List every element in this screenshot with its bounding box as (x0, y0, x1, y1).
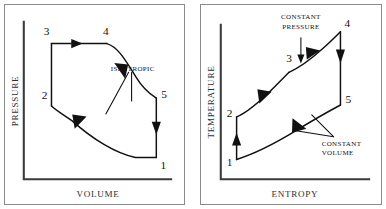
ts-arrow-1-2-icon (232, 133, 241, 146)
ts-point-label-3: 3 (286, 52, 292, 64)
pv-point-label-4: 4 (103, 25, 109, 37)
pressure-volume-panel: 3 4 2 5 1 ISENTROPIC PRESSURE VOLUME (4, 4, 185, 205)
ts-annotation-constant-pressure-line1: CONSTANT (281, 13, 321, 21)
pv-annotation-isentropic: ISENTROPIC (111, 65, 155, 73)
pressure-volume-svg: 3 4 2 5 1 ISENTROPIC PRESSURE VOLUME (5, 5, 184, 204)
ts-point-label-4: 4 (345, 17, 351, 29)
ts-arrow-2-3-icon (257, 89, 271, 103)
pv-arrow-3-4-icon (71, 39, 82, 48)
temperature-entropy-svg: 3 4 5 2 1 CONSTANT PRESSURE CONSTANT VOL… (201, 5, 381, 204)
ts-annotation-constant-volume-line2: VOLUME (322, 149, 354, 157)
ts-annotation-constant-pressure-line2: PRESSURE (282, 23, 319, 31)
ts-x-axis-title: ENTROPY (272, 189, 319, 199)
pv-process-1-2 (51, 106, 156, 157)
ts-point-label-2: 2 (227, 107, 233, 119)
pv-isentropic-leader-lower (106, 72, 129, 114)
pv-point-label-2: 2 (42, 89, 48, 101)
pv-point-label-3: 3 (44, 25, 50, 37)
pv-point-label-5: 5 (161, 88, 167, 100)
figure-root: 3 4 2 5 1 ISENTROPIC PRESSURE VOLUME (0, 0, 386, 209)
ts-constant-pressure-arrow-icon (297, 55, 304, 64)
ts-point-label-1: 1 (227, 156, 233, 168)
ts-y-axis-title: TEMPERATURE (206, 66, 216, 139)
pv-point-label-1: 1 (160, 159, 166, 171)
ts-annotation-constant-volume-line1: CONSTANT (322, 140, 362, 148)
pv-x-axis-title: VOLUME (76, 189, 119, 199)
pv-y-axis-title: PRESSURE (10, 76, 20, 127)
ts-point-label-5: 5 (346, 93, 352, 105)
temperature-entropy-panel: 3 4 5 2 1 CONSTANT PRESSURE CONSTANT VOL… (200, 4, 382, 205)
pv-arrow-5-1-icon (152, 122, 161, 135)
ts-arrow-4-5-icon (336, 50, 345, 64)
